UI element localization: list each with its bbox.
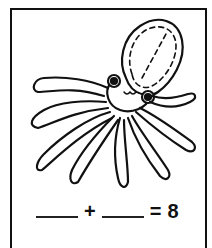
equation-result: 8 [167, 201, 178, 221]
answer-blank-1[interactable] [36, 202, 78, 218]
equals-sign: = [150, 201, 162, 221]
plus-sign: + [84, 201, 96, 221]
answer-blank-2[interactable] [102, 202, 144, 218]
math-equation: + = 8 [36, 201, 179, 221]
